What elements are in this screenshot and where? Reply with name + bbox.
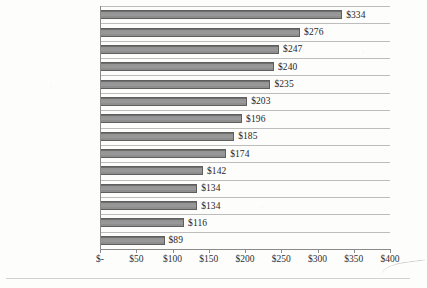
bar[interactable] — [100, 218, 184, 227]
bar[interactable] — [100, 149, 226, 158]
bar-row: Healthcare$240 — [100, 58, 390, 75]
page-edge-line — [6, 278, 410, 279]
bar-row: Financial$247 — [100, 41, 390, 58]
x-axis-tick-label: $250 — [272, 254, 291, 264]
bar-row: Media$89 — [100, 232, 390, 249]
bar-container — [100, 58, 274, 75]
bar-container — [100, 23, 300, 40]
data-label: $116 — [188, 218, 207, 228]
bar-container — [100, 6, 342, 23]
bar-container — [100, 214, 184, 231]
bar-row: Communications$334 — [100, 6, 390, 23]
data-label: $203 — [251, 96, 270, 106]
data-label: $276 — [304, 27, 323, 37]
bar[interactable] — [100, 236, 165, 245]
data-label: $240 — [278, 62, 297, 72]
bar-row: Public$134 — [100, 197, 390, 214]
x-axis-tick-label: $50 — [129, 254, 143, 264]
data-label: $185 — [238, 131, 257, 141]
bar-row: Industrial$235 — [100, 75, 390, 92]
bar-container — [100, 110, 242, 127]
bar-row: Education$142 — [100, 162, 390, 179]
bar[interactable] — [100, 114, 242, 123]
bar[interactable] — [100, 80, 270, 89]
bar-container — [100, 180, 197, 197]
bar[interactable] — [100, 166, 203, 175]
x-axis-tick — [209, 249, 210, 253]
x-axis-tick-label: $300 — [308, 254, 327, 264]
x-axis-tick — [100, 249, 101, 253]
data-label: $134 — [201, 183, 220, 193]
bar-container — [100, 41, 279, 58]
x-axis-tick-label: $100 — [163, 254, 182, 264]
bar-container — [100, 232, 165, 249]
x-axis-tick — [354, 249, 355, 253]
bar[interactable] — [100, 10, 342, 19]
x-axis-tick — [136, 249, 137, 253]
bar-row: Hospitality$116 — [100, 214, 390, 231]
data-label: $334 — [346, 10, 365, 20]
bar[interactable] — [100, 132, 234, 141]
bar[interactable] — [100, 62, 274, 71]
data-label: $174 — [230, 149, 249, 159]
bar-row: Retail$174 — [100, 145, 390, 162]
bar[interactable] — [100, 201, 197, 210]
bar-container — [100, 75, 270, 92]
bar-container — [100, 93, 247, 110]
x-axis-tick — [245, 249, 246, 253]
bar-row: Pharmaceutical$276 — [100, 23, 390, 40]
bar-container — [100, 145, 226, 162]
data-label: $89 — [169, 235, 184, 245]
bar[interactable] — [100, 97, 247, 106]
x-axis-tick — [390, 249, 391, 253]
data-label: $134 — [201, 201, 220, 211]
plot-area: Communications$334Pharmaceutical$276Fina… — [100, 6, 390, 249]
x-axis-tick — [173, 249, 174, 253]
bar[interactable] — [100, 28, 300, 37]
bar-row: Technology$134 — [100, 180, 390, 197]
bar-container — [100, 197, 197, 214]
bar-row: Services$185 — [100, 128, 390, 145]
x-axis-tick-label: $350 — [344, 254, 363, 264]
x-axis-tick — [318, 249, 319, 253]
x-axis-tick-label: $- — [96, 254, 104, 264]
y-axis-line — [100, 6, 101, 250]
x-axis-tick-label: $150 — [199, 254, 218, 264]
x-axis-tick-label: $200 — [236, 254, 255, 264]
bar[interactable] — [100, 184, 197, 193]
bar-row: Transportation$196 — [100, 110, 390, 127]
data-label: $247 — [283, 44, 302, 54]
data-label: $196 — [246, 114, 265, 124]
x-axis-tick — [281, 249, 282, 253]
data-label: $235 — [274, 79, 293, 89]
data-label: $142 — [207, 166, 226, 176]
bar-row: Consumer$203 — [100, 93, 390, 110]
bar-container — [100, 162, 203, 179]
bar[interactable] — [100, 45, 279, 54]
bar-container — [100, 128, 234, 145]
